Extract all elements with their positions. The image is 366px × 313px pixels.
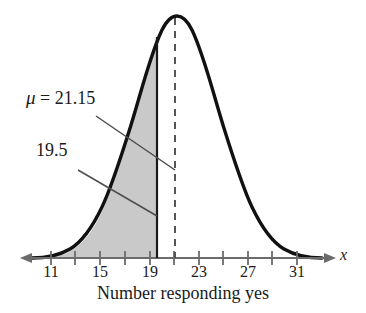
axis-tick-label-27: 27: [240, 264, 256, 280]
axis-tick-label-23: 23: [191, 264, 207, 280]
normal-distribution-figure: μ = 21.15 19.5 11 15 19 23 27 31 x Numbe…: [0, 0, 366, 313]
axis-tick-label-31: 31: [289, 264, 305, 280]
mu-value: = 21.15: [36, 88, 96, 108]
axis-tick-label-11: 11: [43, 264, 58, 280]
mu-symbol: μ: [26, 87, 36, 108]
axis-arrow-right-icon: [324, 253, 336, 263]
axis-tick-label-15: 15: [92, 264, 108, 280]
normal-curve: [32, 16, 322, 258]
threshold-annotation-label: 19.5: [36, 141, 68, 159]
axis-arrow-left-icon: [20, 253, 32, 263]
axis-tick-label-19: 19: [142, 264, 158, 280]
x-axis-variable-label: x: [340, 247, 347, 263]
figure-caption: Number responding yes: [0, 284, 366, 302]
mean-annotation-label: μ = 21.15: [26, 88, 95, 107]
